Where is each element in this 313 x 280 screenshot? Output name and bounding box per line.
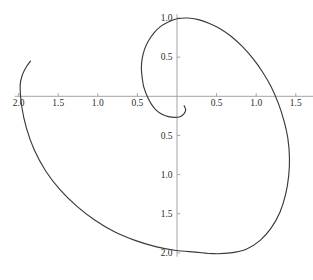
y-tick-label: 1.5 [161,209,173,219]
x-tick-label: 1.0 [92,98,104,108]
plot-canvas: 2.01.51.00.50.51.01.51.00.50.51.01.52.0 [0,0,313,280]
x-tick-label: 1.5 [52,98,64,108]
x-tick-label: 1.5 [290,98,302,108]
x-tick-label: 1.0 [250,98,262,108]
y-tick-label: 0.5 [161,52,173,62]
y-tick-label: 1.0 [161,170,173,180]
x-tick-label: 2.0 [13,98,25,108]
y-tick-label: 1.0 [161,13,173,23]
x-tick-label: 0.5 [131,98,143,108]
spiral-plot-figure: 2.01.51.00.50.51.01.51.00.50.51.01.52.0 [0,0,313,280]
plot-background [0,0,313,280]
x-tick-label: 0.5 [211,98,223,108]
y-tick-label: 0.5 [161,131,173,141]
